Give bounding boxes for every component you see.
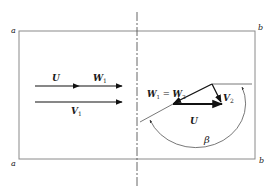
outlet-u-label: U: [190, 116, 199, 126]
corner-label-top-right: b: [258, 23, 263, 32]
corner-label-bottom-left: a: [11, 159, 16, 168]
velocity-triangle-diagram: a a b b U W1 V1 W1 = W2 V2 U β: [0, 0, 273, 192]
beta-label: β: [203, 134, 210, 145]
inlet-u-label: U: [52, 73, 61, 83]
corner-label-top-left: a: [11, 26, 16, 35]
inlet-w1-label: W1: [93, 73, 107, 84]
outlet-v2-arrow: [212, 84, 221, 102]
corner-label-bottom-right: b: [259, 156, 264, 165]
inlet-v1-label: V1: [71, 106, 82, 117]
outlet-v2-label: V2: [223, 93, 234, 104]
outlet-w-label: W1 = W2: [147, 89, 186, 100]
blade-angle-line: [140, 104, 173, 122]
